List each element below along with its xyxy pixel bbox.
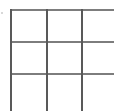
cell-r2c1[interactable] bbox=[12, 43, 46, 73]
grid-horizontal-rule-lower bbox=[10, 73, 114, 75]
grid-horizontal-rule-middle bbox=[10, 41, 114, 43]
cell-r2c2[interactable] bbox=[48, 43, 81, 73]
grid-vertical-rule-right-inner bbox=[81, 9, 83, 111]
grid-vertical-rule-inner bbox=[46, 9, 48, 111]
cell-r1c3[interactable] bbox=[83, 11, 114, 41]
grid-horizontal-rule-top bbox=[10, 9, 114, 11]
cell-r3c1[interactable] bbox=[12, 75, 46, 111]
cell-r1c2[interactable] bbox=[48, 11, 81, 41]
grid-canvas bbox=[0, 0, 114, 111]
grid-vertical-rule-left bbox=[10, 9, 12, 111]
cell-r1c1[interactable] bbox=[12, 11, 46, 41]
edge-speck bbox=[1, 12, 3, 14]
cell-r3c2[interactable] bbox=[48, 75, 81, 111]
cell-r2c3[interactable] bbox=[83, 43, 114, 73]
cell-r3c3[interactable] bbox=[83, 75, 114, 111]
